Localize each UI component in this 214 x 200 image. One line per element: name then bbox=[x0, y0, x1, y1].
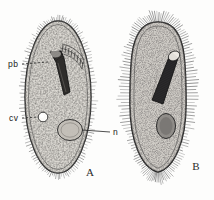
annotation-pb-label: pb bbox=[8, 59, 19, 69]
contractile-vacuole-a bbox=[38, 112, 48, 122]
figure-label-a: A bbox=[86, 166, 94, 178]
macronucleus-a bbox=[58, 120, 83, 141]
macronucleus-b bbox=[157, 114, 176, 139]
figure-label-b: B bbox=[192, 160, 199, 172]
annotation-n-label: n bbox=[113, 127, 118, 137]
annotation-cv-label: cv bbox=[9, 113, 19, 123]
illustration-svg: A B bbox=[0, 0, 214, 200]
figure-canvas: A B bbox=[0, 0, 214, 200]
panel-a: A bbox=[19, 15, 100, 185]
panel-b: B bbox=[116, 10, 199, 185]
